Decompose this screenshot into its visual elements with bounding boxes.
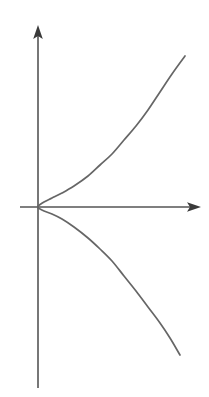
parabola-diagram [0, 0, 209, 397]
figure-canvas [0, 0, 209, 397]
background [0, 0, 209, 397]
